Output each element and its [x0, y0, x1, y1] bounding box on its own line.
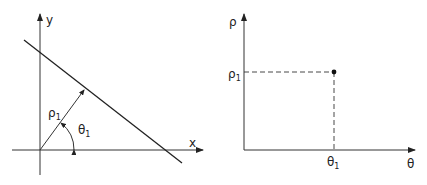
theta1-label: θ1 — [78, 123, 90, 139]
rho1-label: ρ1 — [48, 106, 61, 122]
y-axis-label: y — [46, 13, 53, 27]
right-diagram: ρ θ ρ1 θ1 — [228, 14, 415, 171]
rho1-tick-label: ρ1 — [228, 67, 241, 83]
rho-axis-label: ρ — [229, 15, 237, 29]
rho-vector — [40, 90, 84, 150]
theta1-tick-label: θ1 — [327, 155, 339, 171]
x-axis-label: x — [189, 136, 196, 150]
diagram-canvas: y x ρ1 θ1 ρ θ ρ1 — [0, 0, 427, 185]
parameter-point — [332, 70, 337, 75]
left-diagram: y x ρ1 θ1 — [12, 13, 203, 175]
straight-line — [24, 40, 182, 163]
theta-arc — [61, 123, 74, 150]
theta-axis-label: θ — [407, 157, 414, 171]
